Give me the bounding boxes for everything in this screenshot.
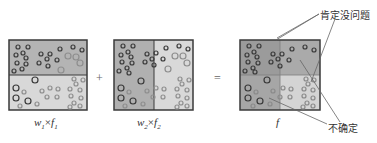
caption-f-sub: 2 [157, 123, 161, 131]
panel-1 [9, 40, 87, 110]
panel-1-caption: w1×f1 [34, 116, 58, 131]
panel-2-caption: w2×f2 [137, 116, 161, 131]
equals-operator: = [214, 71, 221, 86]
annotation-certain: 肯定没问题 [320, 7, 370, 22]
caption-f: f [276, 116, 279, 128]
panel-3 [240, 40, 320, 110]
annotation-uncertain: 不确定 [328, 120, 358, 135]
plus-operator: + [96, 71, 103, 86]
caption-f-sub: 1 [54, 123, 58, 131]
panel-2 [114, 40, 193, 110]
panel-3-caption: f [276, 116, 279, 128]
